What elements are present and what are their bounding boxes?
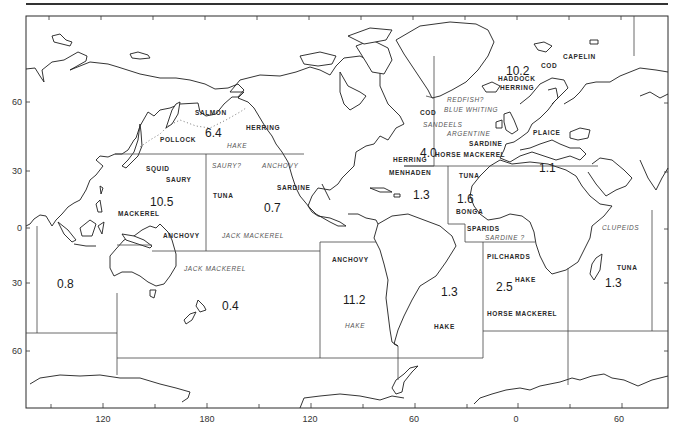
catch-value: 2.5 <box>496 280 513 294</box>
catch-value: 1.1 <box>539 161 556 175</box>
species-label: REDFISH? <box>447 96 484 103</box>
region-north-pacific: SALMON 6.4 HERRING POLLOCK HAKE <box>160 109 280 149</box>
species-label: ANCHOVY <box>261 162 298 169</box>
central-america <box>348 214 378 224</box>
catch-value: 0.7 <box>264 201 281 215</box>
species-label: ANCHOVY <box>332 256 369 263</box>
sumatra <box>58 222 76 242</box>
ellesmere <box>348 28 392 44</box>
species-label: HERRING <box>246 124 280 131</box>
species-label: HORSE MACKEREL <box>435 151 505 158</box>
region-mediterranean: 1.1 <box>539 161 556 175</box>
species-label: ARGENTINE <box>446 130 490 137</box>
y-label-30n: 30 <box>12 166 22 176</box>
species-label: MENHADEN <box>389 169 431 176</box>
species-label: JACK MACKEREL <box>183 265 246 272</box>
catch-value: 1.3 <box>441 285 458 299</box>
iceland <box>482 82 500 92</box>
y-label-60n: 60 <box>12 97 22 107</box>
species-label: SARDINE ? <box>485 234 525 241</box>
species-label: CAPELIN <box>563 53 596 60</box>
y-label-30s: 30 <box>12 278 22 288</box>
antarctic-peninsula <box>392 366 418 394</box>
kamchatka <box>166 102 180 128</box>
x-label-60w: 60 <box>409 414 419 424</box>
species-label: HERRING <box>393 156 427 163</box>
x-label-0: 0 <box>513 414 518 424</box>
new-siberian-islands <box>130 52 150 59</box>
fishing-regions-world-map: 120 180 120 60 0 60 60 30 0 30 60 <box>0 0 678 425</box>
species-label: PILCHARDS <box>487 253 530 260</box>
species-label: MACKEREL <box>118 210 160 217</box>
antarctica-mid <box>300 394 404 408</box>
species-label: JACK MACKEREL <box>221 232 284 239</box>
great-britain <box>504 112 518 134</box>
species-label: SPARIDS <box>467 225 500 232</box>
y-label-60s: 60 <box>12 346 22 356</box>
species-label: HAKE <box>345 322 365 329</box>
japan <box>122 124 142 168</box>
species-label: CLUPEIDS <box>602 224 639 231</box>
species-label: SALMON <box>195 109 227 116</box>
antarctica-west <box>30 375 190 402</box>
species-label: COD <box>420 109 436 116</box>
species-label: SARDINE <box>277 184 311 191</box>
ireland <box>496 120 502 128</box>
hudson-bay <box>340 72 366 110</box>
species-label: SAURY? <box>212 162 241 169</box>
scandinavia <box>548 88 558 104</box>
species-label: TUNA <box>617 264 637 271</box>
region-eastern-indian-ocean: 0.8 <box>57 277 74 291</box>
species-label: HAKE <box>515 276 536 283</box>
x-label-120w: 120 <box>95 414 110 424</box>
species-label: HERRING <box>500 84 534 91</box>
bottom-ticks <box>51 403 622 408</box>
species-label: HAKE <box>434 323 455 330</box>
region-eastern-central-pacific: SAURY? ANCHOVY SARDINE TUNA 0.7 JACK MAC… <box>212 162 311 239</box>
region-southwest-pacific: JACK MACKEREL 0.4 <box>183 265 246 313</box>
region-southwest-atlantic: 1.3 HAKE <box>434 285 458 330</box>
hispaniola <box>394 194 400 197</box>
india <box>640 160 668 190</box>
catch-value: 1.3 <box>413 188 430 202</box>
madagascar <box>590 254 602 280</box>
new-zealand-south <box>184 312 196 324</box>
tasmania <box>150 290 156 298</box>
species-label: SQUID <box>146 165 170 173</box>
antarctica-east <box>474 374 668 404</box>
new-zealand <box>196 300 206 312</box>
java <box>74 244 96 246</box>
taiwan <box>100 186 103 194</box>
y-label-0: 0 <box>17 223 22 233</box>
species-label: COD <box>541 62 557 69</box>
species-label: HADDOCK <box>498 75 535 82</box>
catch-value: 6.4 <box>205 126 222 140</box>
arabia <box>588 158 632 196</box>
species-label: SANDEELS <box>423 121 463 128</box>
species-label: POLLOCK <box>160 136 196 143</box>
catch-value: 0.4 <box>222 299 239 313</box>
catch-value: 0.8 <box>57 277 74 291</box>
species-label: BONGA <box>456 208 483 215</box>
franz-josef <box>590 40 598 44</box>
species-label: SARDINE <box>469 140 503 147</box>
canadian-arctic-islands <box>300 52 336 66</box>
north-america-coast <box>230 56 404 226</box>
mediterranean-coast <box>500 140 586 162</box>
species-label: BLUE WHITING <box>444 106 498 113</box>
x-label-120e: 120 <box>302 414 317 424</box>
species-label: PLAICE <box>533 129 560 136</box>
borneo <box>80 220 96 236</box>
y-axis-labels: 60 30 0 30 60 <box>12 97 22 356</box>
catch-value: 10.5 <box>150 195 174 209</box>
species-label: TUNA <box>213 192 233 199</box>
species-label: HORSE MACKEREL <box>487 310 557 317</box>
cuba <box>370 188 392 192</box>
catch-value: 1.6 <box>457 192 474 206</box>
region-southeast-pacific: ANCHOVY 11.2 HAKE <box>332 256 369 329</box>
europe-coast <box>564 68 668 104</box>
philippines <box>96 200 102 212</box>
species-label: HAKE <box>227 142 247 149</box>
catch-value: 11.2 <box>343 293 366 307</box>
top-ticks <box>49 16 621 20</box>
